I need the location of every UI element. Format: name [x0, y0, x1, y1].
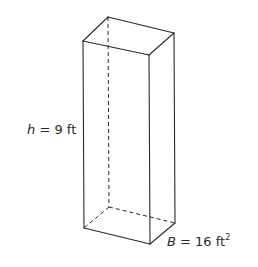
- base-exponent: 2: [225, 233, 230, 242]
- base-variable: B: [167, 234, 176, 249]
- vertical-edge-front-right: [149, 55, 150, 244]
- height-equals: =: [35, 122, 54, 137]
- height-value: 9 ft: [54, 122, 76, 137]
- hidden-vertical-edge-back-left: [108, 17, 109, 207]
- top-edge-left: [83, 17, 108, 41]
- hidden-bottom-edge-left: [84, 207, 109, 228]
- height-label: h = 9 ft: [27, 123, 76, 136]
- base-area-label: B = 16 ft2: [167, 235, 230, 248]
- top-edge-front: [83, 41, 149, 55]
- vertical-edge-front-left: [83, 41, 84, 228]
- base-equals: =: [176, 234, 195, 249]
- top-edge-back: [108, 17, 174, 33]
- vertical-edge-back-right: [174, 33, 175, 223]
- hidden-bottom-edge-back: [109, 207, 175, 223]
- top-edge-right: [149, 33, 174, 55]
- height-variable: h: [27, 122, 35, 137]
- base-value: 16 ft: [195, 234, 225, 249]
- bottom-edge-front: [84, 228, 150, 244]
